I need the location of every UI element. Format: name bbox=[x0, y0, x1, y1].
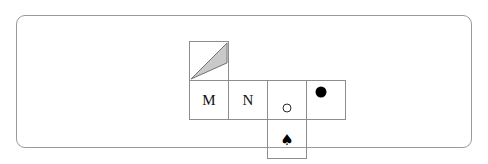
cell-inner: M bbox=[190, 81, 228, 119]
grid-cell-filled-circle bbox=[306, 80, 346, 120]
rounded-panel-border: M N ♠ bbox=[16, 15, 472, 148]
grid-cell-letter-n: N bbox=[228, 80, 268, 120]
cell-inner bbox=[190, 42, 228, 80]
grid-cell-open-circle bbox=[267, 80, 307, 120]
cell-inner bbox=[307, 81, 345, 119]
screenshot-canvas: M N ♠ bbox=[0, 0, 488, 164]
filled-circle-icon bbox=[316, 86, 327, 97]
cell-inner bbox=[268, 81, 306, 119]
open-circle-icon bbox=[283, 103, 292, 112]
grid-cell-spade: ♠ bbox=[267, 119, 307, 159]
grid-cell-triangle bbox=[189, 41, 229, 81]
letter-label-n: N bbox=[229, 93, 267, 108]
gray-triangle-icon bbox=[190, 42, 228, 80]
spade-suit-icon: ♠ bbox=[268, 132, 306, 147]
cube-net-figure: M N ♠ bbox=[189, 41, 343, 159]
cell-inner: ♠ bbox=[268, 120, 306, 158]
letter-label-m: M bbox=[190, 93, 228, 108]
grid-cell-letter-m: M bbox=[189, 80, 229, 120]
cell-inner: N bbox=[229, 81, 267, 119]
